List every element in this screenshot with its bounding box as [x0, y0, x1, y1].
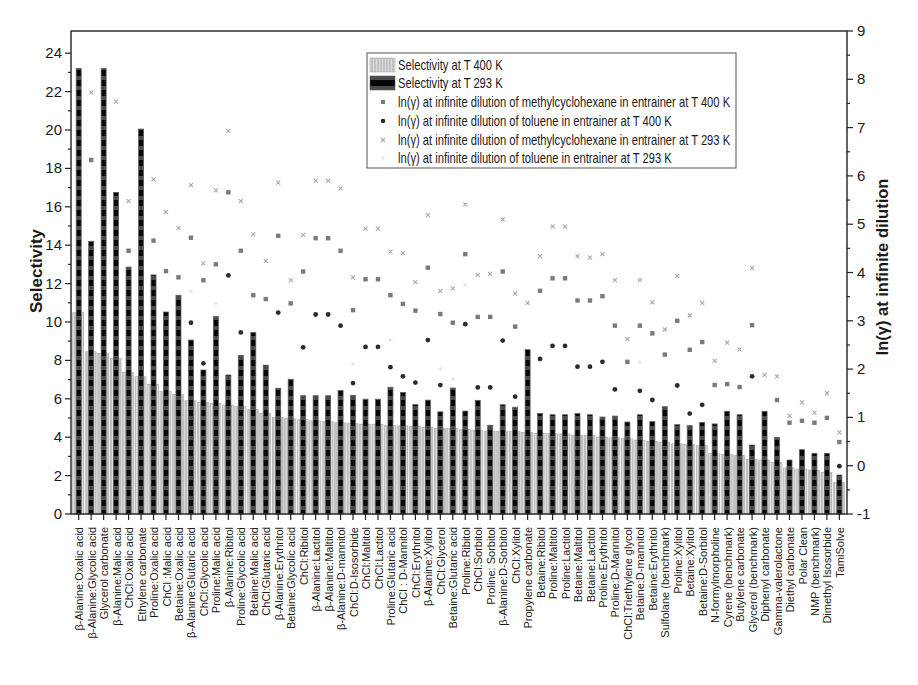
y-tick-label-left: 6	[54, 390, 62, 407]
bar	[114, 192, 119, 514]
data-point-circle	[301, 345, 306, 350]
data-point-x	[289, 278, 293, 282]
legend-entry-selectivity-293k: Selectivity at T 293 K	[398, 76, 503, 91]
data-point-x	[276, 181, 280, 185]
bar	[400, 392, 405, 514]
bar	[338, 391, 343, 514]
x-category-label: β-Alanine:D-Sorbitol	[497, 527, 509, 626]
bar	[226, 375, 231, 514]
x-category-label: Betaine:Glutaric acid	[447, 527, 459, 629]
data-point-x	[301, 233, 305, 237]
data-point-circle	[376, 344, 381, 349]
data-point-x	[526, 301, 530, 305]
bar	[775, 437, 780, 514]
x-category-label: Diethyl carbonate	[784, 527, 796, 613]
x-category-label: ChCl:Triethylene glycol	[622, 527, 634, 640]
y-tick-label-right: 4	[857, 264, 865, 281]
data-point-square	[264, 297, 268, 301]
data-point-circle	[488, 385, 493, 390]
x-category-label: Butylene carbonate	[734, 527, 746, 622]
data-point-circle	[700, 402, 705, 407]
legend-label: Selectivity at T 293 K	[398, 76, 503, 91]
x-category-label: ChCl:Glycolic acid	[198, 527, 210, 616]
data-point-circle	[326, 312, 331, 317]
data-point-circle	[351, 381, 356, 386]
y-tick-label-right: 9	[857, 22, 865, 39]
data-point-circle	[687, 411, 692, 416]
data-point-square	[800, 419, 804, 423]
series-ln-gamma-toluene-293k	[189, 283, 642, 381]
data-point-square	[837, 440, 841, 444]
bar	[313, 396, 318, 514]
data-point-plus	[638, 360, 642, 364]
data-point-square	[438, 312, 442, 316]
bar	[837, 475, 842, 514]
bar	[89, 241, 94, 514]
data-point-circle	[550, 344, 555, 349]
data-point-circle	[363, 344, 368, 349]
bar	[163, 312, 168, 514]
bar	[213, 317, 218, 514]
y-tick-label-left: 4	[54, 428, 62, 445]
data-point-plus	[189, 290, 193, 294]
data-point-circle	[338, 323, 343, 328]
legend-label: ln(γ) at infinite dilution of methylcycl…	[398, 133, 731, 148]
data-point-square	[301, 269, 305, 273]
data-point-square	[588, 298, 592, 302]
data-point-circle	[675, 383, 680, 388]
data-point-circle	[238, 330, 243, 335]
data-point-square	[700, 340, 704, 344]
x-category-label: Diphenyl carbonate	[759, 527, 771, 622]
legend-entry-mch-293k: ln(γ) at infinite dilution of methylcycl…	[398, 133, 731, 148]
legend-entry-mch-400k: ln(γ) at infinite dilution of methylcycl…	[398, 95, 731, 110]
data-point-circle	[600, 359, 605, 364]
bar	[425, 400, 430, 514]
x-category-label: ChCl:Glycerol	[435, 527, 447, 595]
y-axis-right: -10123456789	[847, 22, 870, 522]
data-point-square	[176, 275, 180, 279]
data-point-x	[800, 400, 804, 404]
data-point-x	[625, 337, 629, 341]
data-point-circle	[575, 364, 580, 369]
bar	[824, 453, 829, 514]
x-category-label: Proline:Maltitol	[547, 527, 559, 599]
x-category-label: β-Alanine:Erythritol	[273, 527, 285, 620]
data-point-x	[675, 274, 679, 278]
x-category-label: ChCl:Sorbitol	[472, 527, 484, 592]
legend-label: Selectivity at T 400 K	[398, 58, 503, 73]
y-tick-label-right: 3	[857, 312, 865, 329]
data-point-x	[326, 179, 330, 183]
y-axis-title-right: ln(γ) at infinite dilution	[873, 179, 891, 356]
bar	[475, 400, 480, 514]
bar	[725, 411, 730, 514]
data-point-circle	[438, 383, 443, 388]
y-tick-label-left: 18	[45, 159, 62, 176]
x-category-label: Betaine:Erythritol	[647, 527, 659, 611]
data-point-plus	[463, 283, 467, 287]
x-category-label: β-Alanine:Xylitol	[422, 527, 434, 606]
bar	[762, 411, 767, 514]
bar	[575, 414, 580, 514]
bar	[76, 69, 81, 514]
x-category-label: ChCl:Oxalic acid	[123, 527, 135, 608]
x-category-label: ChCl:Lactitol	[373, 527, 385, 589]
data-point-x	[775, 374, 779, 378]
x-category-label: Proline:Erythritol	[597, 527, 609, 608]
x-category-label: Proline:Ribitol	[460, 527, 472, 595]
bar	[363, 399, 368, 514]
data-point-circle	[201, 361, 206, 366]
data-point-x	[314, 179, 318, 183]
data-point-circle	[226, 273, 231, 278]
data-point-x	[114, 100, 118, 104]
y-tick-label-right: 2	[857, 360, 865, 377]
y-tick-label-left: 8	[54, 351, 62, 368]
data-point-x	[127, 199, 131, 203]
data-point-square	[488, 315, 492, 319]
bar	[525, 350, 530, 514]
data-point-x	[339, 186, 343, 190]
legend-entry-toluene-400k: ln(γ) at infinite dilution of toluene in…	[398, 114, 672, 129]
x-category-label: ChCl:Ribitol	[298, 527, 310, 585]
bar	[351, 396, 356, 514]
data-point-circle	[538, 357, 543, 362]
y-tick-label-right: 5	[857, 215, 865, 232]
